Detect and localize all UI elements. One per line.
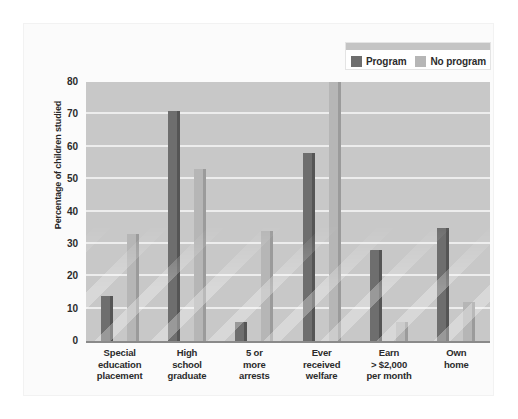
legend-swatch-program xyxy=(351,56,362,67)
bar-face xyxy=(396,322,405,341)
bar-side xyxy=(446,228,449,341)
x-category-label-line: Own xyxy=(416,347,496,359)
scan-watermark-stripes xyxy=(86,82,490,341)
gridline xyxy=(86,274,490,276)
y-tick-label: 20 xyxy=(52,270,78,281)
bar-side xyxy=(312,153,315,341)
y-tick-label: 80 xyxy=(52,76,78,87)
plot-area xyxy=(86,82,490,341)
y-axis-title: Percentage of children studied xyxy=(53,65,63,265)
bar-side xyxy=(110,296,113,341)
bar-side xyxy=(379,250,382,341)
bar-face xyxy=(261,231,270,341)
bar xyxy=(303,153,315,341)
gridline xyxy=(86,210,490,212)
y-tick-label: 0 xyxy=(52,335,78,346)
legend-label-program: Program xyxy=(366,56,406,67)
bar-side xyxy=(177,111,180,341)
bar xyxy=(261,231,273,341)
y-axis-title-container: Percentage of children studied xyxy=(30,0,46,419)
bar xyxy=(127,234,139,341)
gridline xyxy=(86,145,490,147)
bar-side xyxy=(136,234,139,341)
bar xyxy=(329,82,341,341)
chart-legend: Program No program xyxy=(345,42,491,70)
y-tick-label: 10 xyxy=(52,303,78,314)
bar-face xyxy=(127,234,136,341)
x-category-label-line: home xyxy=(416,359,496,371)
bar-side xyxy=(244,322,247,341)
bar-side xyxy=(270,231,273,341)
y-tick-label: 50 xyxy=(52,173,78,184)
y-tick-label: 40 xyxy=(52,206,78,217)
legend-label-no-program: No program xyxy=(430,56,486,67)
bar xyxy=(437,228,449,341)
bar xyxy=(463,302,475,341)
y-tick-label: 70 xyxy=(52,108,78,119)
bar-face xyxy=(329,82,338,341)
bar-side xyxy=(338,82,341,341)
bar-face xyxy=(194,169,203,341)
gridline xyxy=(86,112,490,114)
legend-top-band xyxy=(346,43,490,50)
gridline xyxy=(86,177,490,179)
legend-item-program[interactable]: Program xyxy=(351,56,406,67)
y-tick-label: 30 xyxy=(52,238,78,249)
bar-side xyxy=(405,322,408,341)
bar xyxy=(396,322,408,341)
bar-face xyxy=(437,228,446,341)
bar xyxy=(235,322,247,341)
bar xyxy=(168,111,180,341)
bar xyxy=(370,250,382,341)
gridline xyxy=(86,242,490,244)
bar-face xyxy=(101,296,110,341)
bar-face xyxy=(168,111,177,341)
gridline xyxy=(86,307,490,309)
bar-face xyxy=(463,302,472,341)
bar-face xyxy=(370,250,379,341)
bar xyxy=(194,169,206,341)
bar-face xyxy=(235,322,244,341)
bar xyxy=(101,296,113,341)
chart-figure: Percentage of children studied 010203040… xyxy=(0,0,518,419)
y-tick-label: 60 xyxy=(52,141,78,152)
x-category-label: Ownhome xyxy=(416,347,496,370)
bar-side xyxy=(472,302,475,341)
x-category-label-line: per month xyxy=(349,370,429,382)
legend-swatch-no-program xyxy=(415,56,426,67)
legend-items: Program No program xyxy=(346,52,490,71)
bar-side xyxy=(203,169,206,341)
x-axis-line xyxy=(86,341,490,343)
bar-face xyxy=(303,153,312,341)
legend-item-no-program[interactable]: No program xyxy=(415,56,486,67)
